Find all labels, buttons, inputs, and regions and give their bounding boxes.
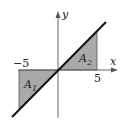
y-axis-arrow-icon (56, 11, 61, 18)
x-axis-label: x (110, 55, 117, 68)
tick-neg-5: −5 (13, 57, 29, 70)
plot-canvas: y x −5 5 A1 A2 (0, 0, 121, 122)
tick-pos-5: 5 (94, 72, 101, 85)
diagram: y x −5 5 A1 A2 (0, 0, 121, 122)
x-axis-arrow-icon (111, 68, 118, 73)
y-axis-label: y (61, 8, 69, 21)
